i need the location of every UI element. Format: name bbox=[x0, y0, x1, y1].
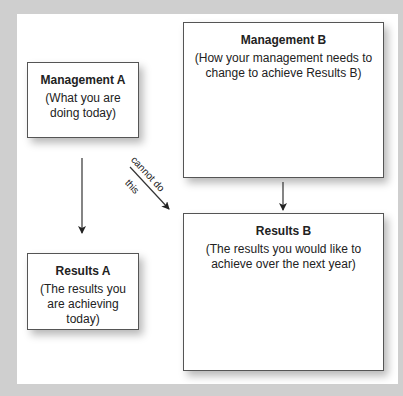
results-a-title: Results A bbox=[28, 264, 138, 279]
results-b-desc-line2: achieve over the next year) bbox=[184, 257, 383, 272]
management-b-title: Management B bbox=[184, 33, 383, 48]
results-b-desc-line1: (The results you would like to bbox=[184, 242, 383, 257]
management-a-title: Management A bbox=[28, 73, 138, 88]
management-b-box: Management B (How your management needs … bbox=[183, 22, 384, 178]
results-a-desc-line2: are achieving bbox=[28, 297, 138, 312]
management-b-desc-line2: change to achieve Results B) bbox=[184, 66, 383, 81]
management-b-desc-line1: (How your management needs to bbox=[184, 51, 383, 66]
management-a-desc-line1: (What you are bbox=[28, 91, 138, 106]
management-a-box: Management A (What you are doing today) bbox=[27, 62, 139, 138]
results-b-box: Results B (The results you would like to… bbox=[183, 213, 384, 371]
results-a-desc-line3: today) bbox=[28, 312, 138, 327]
results-a-desc-line1: (The results you bbox=[28, 282, 138, 297]
results-a-box: Results A (The results you are achieving… bbox=[27, 253, 139, 330]
results-b-title: Results B bbox=[184, 224, 383, 239]
management-a-desc-line2: doing today) bbox=[28, 106, 138, 121]
